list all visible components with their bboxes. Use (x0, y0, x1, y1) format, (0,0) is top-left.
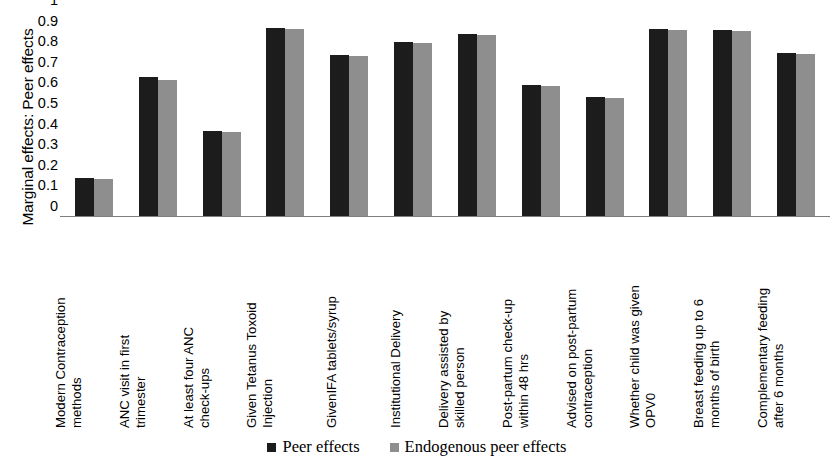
bar-endogenous-peer-effects (796, 54, 815, 216)
x-axis-label-line: Delivery assisted by (436, 228, 452, 428)
x-axis-category-label: At least four ANCcheck-ups (181, 228, 213, 428)
x-axis-category-label: Modern Contraceptionmethods (53, 228, 85, 428)
x-axis-category-label: GivenIFA tablets/syrup (324, 228, 340, 428)
y-axis-tick-label: 0.6 (22, 75, 58, 89)
x-axis-category-label: Advised on post-partumcontraception (564, 228, 596, 428)
chart-legend: Peer effectsEndogenous peer effects (0, 437, 834, 457)
x-axis-label-line: GivenIFA tablets/syrup (324, 228, 340, 428)
bar-peer-effects (777, 53, 796, 216)
x-axis-label-line: contraception (580, 228, 596, 428)
bar-peer-effects (649, 29, 668, 216)
legend-swatch-icon (390, 443, 399, 452)
y-axis-tick-label: 0.2 (22, 158, 58, 172)
x-axis-label-cell: Given Tetanus ToxoidInjection (253, 222, 317, 428)
bar-group (126, 10, 190, 216)
bar-group (636, 10, 700, 216)
bar-group (253, 10, 317, 216)
bar-group (700, 10, 764, 216)
bar-peer-effects (586, 97, 605, 216)
bar-group (190, 10, 254, 216)
bar-endogenous-peer-effects (732, 31, 751, 216)
bar-group (62, 10, 126, 216)
bar-group (317, 10, 381, 216)
x-axis-label-line: Advised on post-partum (564, 228, 580, 428)
x-axis-label-line: months of birth (707, 228, 723, 428)
bar-peer-effects (713, 30, 732, 216)
x-axis-label-line: At least four ANC (181, 228, 197, 428)
x-axis-label-line: Given Tetanus Toxoid (244, 228, 260, 428)
x-axis-category-label: ANC visit in firsttrimester (117, 228, 149, 428)
bar-endogenous-peer-effects (158, 80, 177, 216)
x-axis-category-labels: Modern ContraceptionmethodsANC visit in … (62, 222, 828, 428)
legend-label: Endogenous peer effects (405, 437, 567, 457)
legend-item[interactable]: Peer effects (267, 437, 359, 457)
chart-figure: Marginal effects: Peer effects 10.90.80.… (0, 0, 834, 465)
x-axis-category-label: Breast feeding up to 6months of birth (691, 228, 723, 428)
bar-endogenous-peer-effects (222, 132, 241, 216)
y-axis-tick-label: 0.1 (22, 178, 58, 192)
x-axis-label-line: check-ups (197, 228, 213, 428)
bar-groups (62, 10, 828, 216)
bar-peer-effects (203, 131, 222, 216)
x-axis-label-cell: GivenIFA tablets/syrup (317, 222, 381, 428)
bar-endogenous-peer-effects (349, 56, 368, 216)
x-axis-label-line: Breast feeding up to 6 (691, 228, 707, 428)
y-axis-tick-label: 0.7 (22, 55, 58, 69)
bar-peer-effects (75, 178, 94, 216)
x-axis-label-line: Modern Contraception (53, 228, 69, 428)
bar-group (764, 10, 828, 216)
x-axis-label-line: Whether child was given (627, 228, 643, 428)
y-axis-tick-labels: 10.90.80.70.60.50.40.30.20.10 (22, 0, 58, 216)
bar-peer-effects (394, 42, 413, 216)
bar-peer-effects (458, 34, 477, 216)
x-axis-label-line: ANC visit in first (117, 228, 133, 428)
x-axis-category-label: Delivery assisted byskilled person (436, 228, 468, 428)
bar-peer-effects (522, 85, 541, 216)
x-axis-label-cell: Complementary feedingafter 6 months (764, 222, 828, 428)
x-axis-label-line: Post-partum check-up (500, 228, 516, 428)
x-axis-category-label: Whether child was givenOPV0 (627, 228, 659, 428)
y-axis-tick-label: 1 (22, 0, 58, 7)
y-axis-tick-label: 0.3 (22, 137, 58, 151)
x-axis-label-line: Injection (260, 228, 276, 428)
legend-item[interactable]: Endogenous peer effects (390, 437, 567, 457)
x-axis-category-label: Given Tetanus ToxoidInjection (244, 228, 276, 428)
x-axis-label-line: Complementary feeding (755, 228, 771, 428)
bar-endogenous-peer-effects (477, 35, 496, 216)
x-axis-label-line: skilled person (452, 228, 468, 428)
x-axis-category-label: Institutional Delivery (388, 228, 404, 428)
bar-group (509, 10, 573, 216)
legend-label: Peer effects (282, 437, 359, 457)
bar-group (573, 10, 637, 216)
x-axis-category-label: Post-partum check-upwithin 48 hrs (500, 228, 532, 428)
x-axis-label-line: after 6 months (771, 228, 787, 428)
x-axis-category-label: Complementary feedingafter 6 months (755, 228, 787, 428)
y-axis-tick-label: 0.4 (22, 117, 58, 131)
x-axis-baseline (60, 216, 830, 217)
y-axis-tick-label: 0.9 (22, 14, 58, 28)
bar-peer-effects (330, 55, 349, 216)
bar-group (445, 10, 509, 216)
x-axis-label-line: within 48 hrs (516, 228, 532, 428)
y-axis-tick-label: 0.5 (22, 96, 58, 110)
bar-endogenous-peer-effects (605, 98, 624, 216)
y-axis-tick-label: 0 (22, 199, 58, 213)
x-axis-label-line: trimester (133, 228, 149, 428)
bar-group (381, 10, 445, 216)
bar-endogenous-peer-effects (668, 30, 687, 216)
x-axis-label-line: Institutional Delivery (388, 228, 404, 428)
y-axis-tick-label: 0.8 (22, 34, 58, 48)
x-axis-label-line: methods (69, 228, 85, 428)
bar-peer-effects (139, 77, 158, 216)
bar-peer-effects (266, 28, 285, 216)
bar-endogenous-peer-effects (413, 43, 432, 216)
bar-endogenous-peer-effects (541, 86, 560, 216)
x-axis-label-line: OPV0 (643, 228, 659, 428)
bar-endogenous-peer-effects (94, 179, 113, 216)
legend-swatch-icon (267, 443, 276, 452)
bar-endogenous-peer-effects (285, 29, 304, 216)
